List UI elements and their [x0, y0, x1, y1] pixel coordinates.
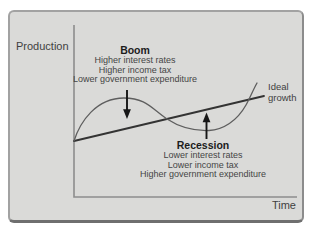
recession-up-arrow — [203, 113, 211, 140]
figure-canvas: Production Boom Higher interest rates Hi… — [0, 0, 314, 234]
ideal-growth-label-line1: Ideal — [268, 82, 297, 93]
business-cycle-curve — [74, 83, 257, 141]
boom-down-arrow — [123, 90, 131, 119]
x-axis-label: Time — [240, 200, 296, 212]
boom-annotation: Boom Higher interest rates Higher income… — [55, 44, 215, 85]
recession-annotation: Recession Lower interest rates Lower inc… — [123, 139, 283, 180]
ideal-growth-label-line2: growth — [268, 93, 297, 104]
recession-point-gov-expenditure: Higher government expenditure — [123, 170, 283, 180]
diagram-lines — [0, 0, 314, 234]
ideal-growth-label: Ideal growth — [268, 82, 297, 103]
boom-point-gov-expenditure: Lower government expenditure — [55, 75, 215, 85]
